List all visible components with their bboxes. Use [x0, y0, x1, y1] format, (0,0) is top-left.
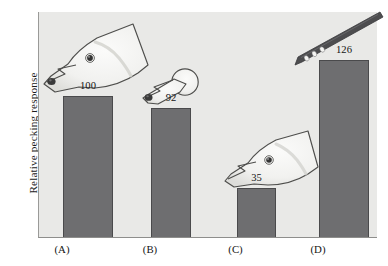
bar-d: [319, 60, 369, 237]
x-axis-label-d: (D): [293, 243, 343, 255]
bar-value-b: 92: [151, 92, 191, 103]
figure-bar-chart-pecking-response: Relative pecking response: [0, 0, 388, 266]
x-axis-label-a: (A): [37, 243, 87, 255]
x-axis-label-c: (C): [216, 243, 255, 255]
bar-value-d: 126: [319, 44, 369, 55]
x-axis-label-b: (B): [130, 243, 170, 255]
bar-value-a: 100: [63, 80, 113, 91]
plot-area-inner: 100 92 35 126: [39, 12, 377, 237]
stimulus-icon-gull-head-with-beak-spot: [35, 18, 155, 104]
bar-value-c: 35: [237, 172, 276, 183]
bar-c: [237, 188, 276, 237]
bar-a: [63, 96, 113, 237]
bar-b: [151, 108, 191, 237]
plot-area: 100 92 35 126: [38, 12, 377, 238]
